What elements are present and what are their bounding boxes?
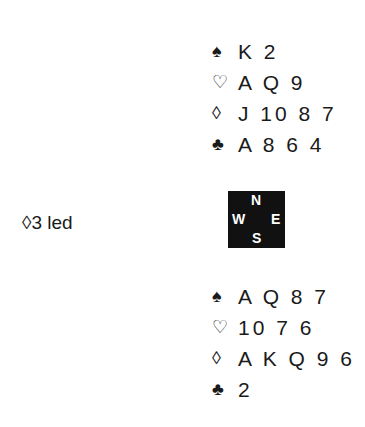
compass-south: S <box>252 231 261 245</box>
north-spades-cards: K 2 <box>238 36 279 67</box>
club-icon: ♣ <box>212 374 238 405</box>
south-diamonds-cards: A K Q 9 6 <box>238 343 355 374</box>
south-hearts-cards: 10 7 6 <box>238 312 314 343</box>
club-icon: ♣ <box>212 129 238 160</box>
compass-east: E <box>271 212 280 226</box>
south-spades: ♠ A Q 8 7 <box>212 281 355 312</box>
spade-icon: ♠ <box>212 281 238 312</box>
south-hearts: ♡ 10 7 6 <box>212 312 355 343</box>
heart-icon: ♡ <box>212 312 238 343</box>
heart-icon: ♡ <box>212 67 238 98</box>
south-hand: ♠ A Q 8 7 ♡ 10 7 6 ◊ A K Q 9 6 ♣ 2 <box>212 281 355 405</box>
north-hand: ♠ K 2 ♡ A Q 9 ◊ J 10 8 7 ♣ A 8 6 4 <box>212 36 337 160</box>
north-clubs-cards: A 8 6 4 <box>238 129 324 160</box>
north-clubs: ♣ A 8 6 4 <box>212 129 337 160</box>
opening-lead: ◊3 led <box>22 211 73 235</box>
diamond-icon: ◊ <box>212 343 238 374</box>
south-diamonds: ◊ A K Q 9 6 <box>212 343 355 374</box>
north-hearts: ♡ A Q 9 <box>212 67 337 98</box>
spade-icon: ♠ <box>212 36 238 67</box>
compass-icon: N W E S <box>228 191 285 248</box>
north-spades: ♠ K 2 <box>212 36 337 67</box>
compass-north: N <box>251 193 261 207</box>
compass-west: W <box>232 212 245 226</box>
south-clubs: ♣ 2 <box>212 374 355 405</box>
north-hearts-cards: A Q 9 <box>238 67 306 98</box>
north-diamonds-cards: J 10 8 7 <box>238 98 337 129</box>
north-diamonds: ◊ J 10 8 7 <box>212 98 337 129</box>
diamond-icon: ◊ <box>212 98 238 129</box>
south-spades-cards: A Q 8 7 <box>238 281 329 312</box>
south-clubs-cards: 2 <box>238 374 253 405</box>
